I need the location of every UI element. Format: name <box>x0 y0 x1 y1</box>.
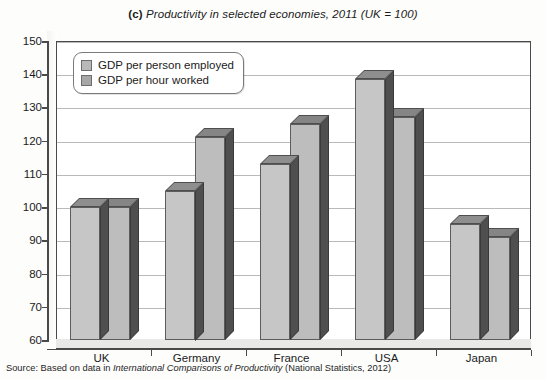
x-tick-mark-0 <box>151 350 152 356</box>
y-tick-mark-110 <box>42 174 49 176</box>
bar-front-face <box>70 207 100 340</box>
y-tick-mark-90 <box>42 240 49 242</box>
bar-france-series1 <box>260 164 290 340</box>
y-tick-label-70: 70 <box>12 301 42 313</box>
bar-side-face <box>195 181 204 340</box>
y-tick-mark-70 <box>42 307 49 309</box>
source-publication-title: International Comparisons of Productivit… <box>113 363 283 373</box>
x-axis-line <box>47 349 531 350</box>
x-tick-mark-4 <box>531 350 532 356</box>
y-tick-mark-80 <box>42 274 49 276</box>
chart-floor <box>47 339 531 350</box>
bar-side-face <box>385 70 394 340</box>
y-tick-mark-130 <box>42 107 49 109</box>
y-tick-mark-150 <box>42 41 49 43</box>
bar-side-face <box>320 115 329 340</box>
x-tick-mark-2 <box>341 350 342 356</box>
y-tick-label-100: 100 <box>12 201 42 213</box>
bar-side-face <box>225 128 234 340</box>
chart-title: (c) Productivity in selected economies, … <box>0 8 546 20</box>
bar-side-face <box>510 228 519 340</box>
bar-side-face <box>480 214 489 340</box>
y-tick-label-130: 130 <box>12 101 42 113</box>
bar-japan-series1 <box>450 224 480 340</box>
floor-face <box>56 339 531 349</box>
source-note: Source: Based on data in International C… <box>6 363 391 373</box>
x-category-label-japan: Japan <box>466 352 497 364</box>
y-tick-mark-140 <box>42 74 49 76</box>
bar-side-face <box>100 198 109 340</box>
figure-label: (c) <box>128 8 142 20</box>
bar-side-face <box>415 108 424 340</box>
y-tick-label-110: 110 <box>12 168 42 180</box>
bar-uk-series1 <box>70 207 100 340</box>
source-suffix: (National Statistics, 2012) <box>283 363 392 373</box>
bar-side-face <box>130 198 139 340</box>
y-tick-label-120: 120 <box>12 135 42 147</box>
y-tick-label-60: 60 <box>12 334 42 346</box>
bar-usa-series1 <box>355 79 385 340</box>
chart-legend: GDP per person employed GDP per hour wor… <box>73 52 244 94</box>
bar-front-face <box>165 191 195 341</box>
bar-front-face <box>355 79 385 340</box>
y-tick-label-90: 90 <box>12 234 42 246</box>
source-prefix: Source: Based on data in <box>6 363 113 373</box>
y-tick-mark-100 <box>42 207 49 209</box>
x-tick-mark-1 <box>246 350 247 356</box>
y-tick-label-80: 80 <box>12 268 42 280</box>
y-tick-label-150: 150 <box>12 35 42 47</box>
chart-title-text: Productivity in selected economies, 2011… <box>146 8 418 20</box>
legend-item-1: GDP per hour worked <box>81 73 234 87</box>
bar-side-face <box>290 155 299 340</box>
legend-swatch-icon-1 <box>81 75 92 86</box>
bar-germany-series1 <box>165 191 195 341</box>
x-tick-mark-3 <box>436 350 437 356</box>
figure-container: (c) Productivity in selected economies, … <box>0 0 546 380</box>
bar-front-face <box>260 164 290 340</box>
legend-label-1: GDP per hour worked <box>98 73 209 87</box>
y-tick-label-140: 140 <box>12 68 42 80</box>
bar-front-face <box>450 224 480 340</box>
legend-item-0: GDP per person employed <box>81 58 234 72</box>
legend-label-0: GDP per person employed <box>98 58 234 72</box>
legend-swatch-icon-0 <box>81 60 92 71</box>
y-tick-mark-120 <box>42 141 49 143</box>
y-axis-line <box>47 41 49 341</box>
